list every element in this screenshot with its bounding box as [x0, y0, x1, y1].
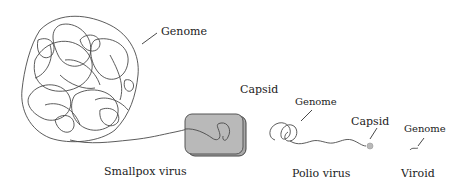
smallpox-capsid: [185, 114, 246, 156]
polio-capsid-pointer: [370, 128, 377, 139]
diagram-graphics: [0, 0, 463, 188]
viroid-caption: Viroid: [401, 168, 435, 179]
polio-genome-pointer: [301, 110, 312, 121]
smallpox-caption: Smallpox virus: [104, 166, 187, 177]
polio-caption: Polio virus: [292, 168, 350, 179]
virus-genome-diagram: Genome Capsid Smallpox virus Genome Caps…: [0, 0, 463, 188]
smallpox-capsid-label: Capsid: [240, 84, 278, 95]
polio-capsid: [367, 143, 373, 149]
smallpox-genome-label: Genome: [161, 26, 207, 37]
polio-capsid-label: Capsid: [351, 116, 389, 127]
viroid-genome-label: Genome: [404, 124, 446, 134]
viroid-genome: [410, 148, 418, 150]
polio-genome-label: Genome: [295, 97, 337, 107]
viroid-genome-pointer: [418, 138, 424, 146]
smallpox-genome-pointer: [142, 33, 157, 44]
